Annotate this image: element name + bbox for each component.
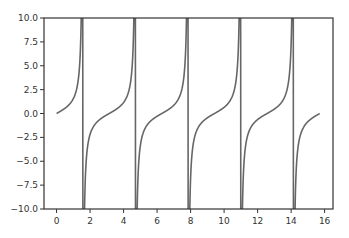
x-tick-label: 16: [319, 216, 331, 226]
y-tick-label: −2.5: [16, 132, 38, 142]
x-tick-label: 0: [54, 216, 60, 226]
y-tick-label: −10.0: [10, 204, 38, 214]
y-tick-label: −5.0: [16, 156, 38, 166]
x-tick-label: 6: [154, 216, 160, 226]
x-tick-label: 14: [285, 216, 297, 226]
x-tick-label: 8: [188, 216, 194, 226]
y-axis-ticks: 10.07.55.02.50.0−2.5−5.0−7.5−10.0: [10, 13, 44, 214]
x-tick-label: 4: [121, 216, 127, 226]
x-tick-label: 10: [218, 216, 230, 226]
y-tick-label: −7.5: [16, 180, 38, 190]
tan-curve: [57, 0, 320, 228]
plot-series: [57, 0, 320, 228]
x-tick-label: 2: [87, 216, 93, 226]
y-tick-label: 0.0: [24, 109, 39, 119]
y-tick-label: 7.5: [24, 37, 38, 47]
x-axis-ticks: 0246810121416: [54, 209, 331, 226]
y-tick-label: 2.5: [24, 85, 38, 95]
tan-line-chart: 10.07.55.02.50.0−2.5−5.0−7.5−10.0 024681…: [0, 0, 349, 238]
y-tick-label: 5.0: [24, 61, 39, 71]
y-tick-label: 10.0: [18, 13, 38, 23]
x-tick-label: 12: [252, 216, 263, 226]
